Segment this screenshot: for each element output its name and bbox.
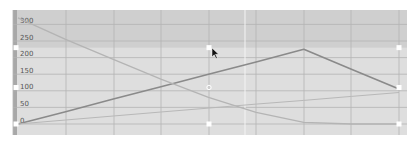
keyframe-handle-middle[interactable]: [207, 122, 212, 127]
keyframe-handle-right[interactable]: [397, 122, 402, 127]
plot-background: [13, 10, 407, 135]
y-tick-label: 200: [20, 50, 33, 58]
y-tick-label: 100: [20, 83, 33, 91]
keyframe-handle-right[interactable]: [397, 45, 402, 50]
keyframe-handle-middle[interactable]: [207, 45, 212, 50]
keyframe-handle-left[interactable]: [14, 45, 19, 50]
keyframe-handle-left[interactable]: [14, 85, 19, 90]
y-tick-label: 150: [20, 67, 33, 75]
y-tick-label: 50: [20, 100, 29, 108]
y-axis-strip: [13, 10, 17, 135]
line-chart: 300250200150100500: [0, 0, 418, 142]
keyframe-handle-right[interactable]: [397, 85, 402, 90]
y-tick-label: 250: [20, 34, 33, 42]
keyframe-handle-left[interactable]: [14, 122, 19, 127]
